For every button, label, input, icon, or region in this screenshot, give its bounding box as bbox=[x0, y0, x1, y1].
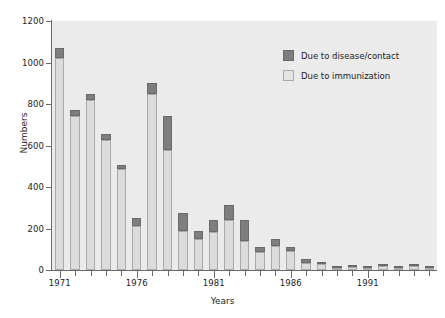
bar-segment-immunization bbox=[240, 241, 250, 270]
bar-segment-immunization bbox=[194, 239, 204, 270]
y-axis-tick bbox=[46, 104, 51, 105]
bar-segment-disease bbox=[240, 220, 250, 241]
bar-segment-immunization bbox=[86, 100, 96, 270]
bar-1982 bbox=[224, 205, 234, 270]
bar-1979 bbox=[178, 213, 188, 270]
x-axis-tick bbox=[168, 271, 169, 276]
bar-1987 bbox=[301, 259, 311, 270]
bar-1984 bbox=[255, 247, 265, 270]
chart-legend: Due to disease/contact Due to immunizati… bbox=[283, 50, 399, 90]
bar-segment-immunization bbox=[163, 150, 173, 270]
x-axis-tick bbox=[414, 271, 415, 276]
y-axis-tick-label: 0 bbox=[38, 265, 44, 275]
bar-1992 bbox=[378, 265, 388, 270]
y-axis-tick-label: 600 bbox=[27, 141, 44, 151]
bar-segment-immunization bbox=[348, 267, 358, 270]
x-axis-tick bbox=[106, 271, 107, 276]
legend-label-immunization: Due to immunization bbox=[301, 71, 390, 81]
bar-segment-immunization bbox=[70, 116, 80, 270]
bar-segment-immunization bbox=[101, 140, 111, 270]
x-axis-tick bbox=[383, 271, 384, 276]
bar-segment-disease bbox=[117, 165, 127, 169]
bar-segment-disease bbox=[178, 213, 188, 231]
bar-1973 bbox=[86, 94, 96, 270]
bar-segment-disease bbox=[301, 259, 311, 263]
y-axis-tick-label: 1000 bbox=[22, 58, 44, 68]
bar-segment-immunization bbox=[117, 169, 127, 270]
x-axis-tick bbox=[245, 271, 246, 276]
x-axis-tick-label: 1981 bbox=[203, 278, 225, 288]
bar-1971 bbox=[55, 48, 65, 270]
bar-segment-immunization bbox=[132, 226, 142, 270]
bar-segment-disease bbox=[409, 264, 419, 266]
dark-gray-swatch-icon bbox=[283, 50, 294, 61]
y-axis-title: Numbers bbox=[19, 88, 29, 178]
bar-1994 bbox=[409, 265, 419, 270]
x-axis-title: Years bbox=[0, 296, 445, 306]
x-axis-tick bbox=[152, 271, 153, 276]
x-axis-tick bbox=[198, 271, 199, 276]
bar-segment-disease bbox=[70, 110, 80, 116]
bar-segment-disease bbox=[317, 262, 327, 264]
y-axis-tick bbox=[46, 21, 51, 22]
bar-segment-disease bbox=[86, 94, 96, 100]
x-axis-tick-label: 1976 bbox=[126, 278, 148, 288]
bar-segment-disease bbox=[147, 83, 157, 93]
legend-item-disease: Due to disease/contact bbox=[283, 50, 399, 61]
bar-segment-immunization bbox=[317, 264, 327, 270]
bar-segment-disease bbox=[425, 266, 435, 268]
bar-segment-immunization bbox=[178, 231, 188, 270]
bar-segment-disease bbox=[378, 264, 388, 266]
bar-segment-disease bbox=[394, 266, 404, 268]
y-axis-tick bbox=[46, 229, 51, 230]
x-axis-tick-label: 1971 bbox=[49, 278, 71, 288]
y-axis-tick bbox=[46, 187, 51, 188]
y-axis-line bbox=[51, 20, 52, 271]
x-axis-tick bbox=[275, 271, 276, 276]
bar-1993 bbox=[394, 267, 404, 270]
bar-1972 bbox=[70, 110, 80, 270]
bar-segment-disease bbox=[163, 116, 173, 149]
legend-label-disease: Due to disease/contact bbox=[301, 51, 399, 61]
x-axis-tick bbox=[368, 271, 369, 278]
bar-segment-disease bbox=[224, 205, 234, 221]
bar-segment-disease bbox=[55, 48, 65, 58]
bar-segment-disease bbox=[132, 218, 142, 226]
bar-1976 bbox=[132, 218, 142, 270]
y-axis-tick bbox=[46, 146, 51, 147]
legend-item-immunization: Due to immunization bbox=[283, 70, 399, 81]
bar-1981 bbox=[209, 220, 219, 270]
x-axis-tick-label: 1986 bbox=[280, 278, 302, 288]
y-axis-tick bbox=[46, 63, 51, 64]
bar-1978 bbox=[163, 116, 173, 270]
bar-segment-immunization bbox=[147, 94, 157, 270]
bar-segment-immunization bbox=[378, 266, 388, 270]
x-axis-tick bbox=[229, 271, 230, 276]
bar-1995 bbox=[425, 267, 435, 270]
y-axis-tick bbox=[46, 270, 51, 271]
x-axis-tick bbox=[352, 271, 353, 276]
bar-segment-disease bbox=[194, 231, 204, 239]
bar-segment-disease bbox=[348, 265, 358, 267]
bar-segment-disease bbox=[286, 247, 296, 251]
bar-segment-immunization bbox=[363, 268, 373, 270]
x-axis-tick bbox=[291, 271, 292, 278]
y-axis-tick-label: 200 bbox=[27, 224, 44, 234]
x-axis-tick bbox=[322, 271, 323, 276]
x-axis-tick bbox=[183, 271, 184, 276]
y-axis-tick-label: 800 bbox=[27, 99, 44, 109]
bar-1986 bbox=[286, 247, 296, 270]
bar-segment-immunization bbox=[224, 220, 234, 270]
x-axis-tick bbox=[306, 271, 307, 276]
bar-1989 bbox=[332, 267, 342, 270]
x-axis-tick bbox=[260, 271, 261, 276]
bar-1983 bbox=[240, 220, 250, 270]
bar-segment-disease bbox=[363, 266, 373, 268]
x-axis-tick bbox=[121, 271, 122, 276]
bar-1974 bbox=[101, 134, 111, 270]
bar-segment-disease bbox=[255, 247, 265, 252]
bar-segment-immunization bbox=[55, 58, 65, 270]
x-axis-tick bbox=[214, 271, 215, 278]
bar-1975 bbox=[117, 165, 127, 270]
bar-1988 bbox=[317, 263, 327, 270]
